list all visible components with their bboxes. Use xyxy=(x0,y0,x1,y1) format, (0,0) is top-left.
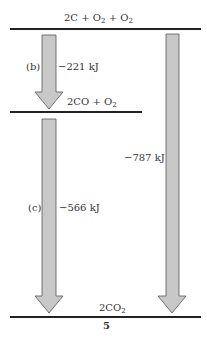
arrow-c-value: −566 kJ xyxy=(59,202,100,214)
arrow-total-value: −787 kJ xyxy=(124,152,165,164)
arrow-c-icon xyxy=(35,119,63,313)
arrow-b-label: (b) xyxy=(26,61,40,73)
arrow-total-icon xyxy=(158,34,186,313)
arrow-c-label: (c) xyxy=(28,202,41,214)
arrow-b-value: −221 kJ xyxy=(58,61,99,73)
figure-number: 5 xyxy=(103,320,110,332)
arrows-layer xyxy=(0,0,207,338)
